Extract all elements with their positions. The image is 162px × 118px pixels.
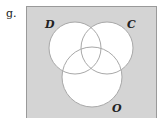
- set-label-d: D: [44, 18, 55, 31]
- set-label-c: C: [127, 18, 136, 31]
- venn-diagram: D C O: [0, 0, 162, 118]
- set-label-o: O: [112, 102, 122, 115]
